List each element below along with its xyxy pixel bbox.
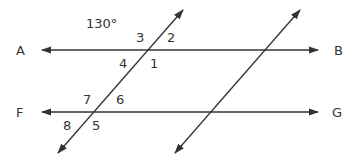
angle-3-label: 3	[136, 31, 144, 44]
angle-1-label: 1	[150, 57, 158, 70]
angle-8-label: 8	[63, 119, 71, 132]
point-a-label: A	[16, 44, 25, 57]
angle-5-label: 5	[92, 119, 100, 132]
point-g-label: G	[332, 106, 342, 119]
diagram-canvas	[0, 0, 355, 159]
angle-7-label: 7	[83, 93, 91, 106]
point-b-label: B	[334, 44, 343, 57]
transversal-left	[58, 10, 183, 153]
angle-2-label: 2	[167, 31, 175, 44]
angle-measure-label: 130°	[86, 17, 117, 30]
angle-6-label: 6	[116, 93, 124, 106]
transversal-right	[175, 10, 300, 153]
angle-4-label: 4	[119, 57, 127, 70]
point-f-label: F	[16, 106, 23, 119]
